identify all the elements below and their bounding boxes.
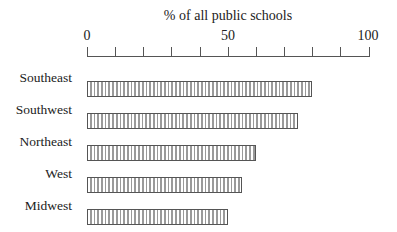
category-label: Southeast bbox=[20, 70, 73, 86]
x-tick bbox=[171, 47, 172, 57]
x-tick bbox=[87, 47, 88, 57]
x-tick bbox=[369, 47, 370, 57]
tick-label-100: 100 bbox=[358, 28, 379, 44]
tick-label-50: 50 bbox=[221, 28, 235, 44]
tick-label-0: 0 bbox=[84, 28, 91, 44]
x-tick bbox=[228, 47, 229, 57]
x-tick bbox=[115, 47, 116, 57]
x-tick bbox=[340, 47, 341, 57]
category-label: Southwest bbox=[16, 102, 72, 118]
x-tick bbox=[312, 47, 313, 57]
x-tick bbox=[256, 47, 257, 57]
category-label: West bbox=[45, 166, 72, 182]
bar-northeast bbox=[87, 145, 256, 161]
category-label: Midwest bbox=[25, 198, 72, 214]
bar-southeast bbox=[87, 81, 312, 97]
axis-title: % of all public schools bbox=[87, 8, 369, 24]
bar-southwest bbox=[87, 113, 298, 129]
bar-west bbox=[87, 177, 242, 193]
bar-midwest bbox=[87, 209, 228, 225]
category-label: Northeast bbox=[20, 134, 72, 150]
x-tick bbox=[284, 47, 285, 57]
x-tick bbox=[143, 47, 144, 57]
x-tick bbox=[200, 47, 201, 57]
